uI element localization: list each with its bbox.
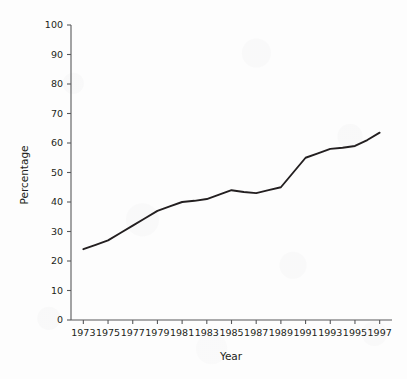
y-axis-tick-label: 90	[51, 49, 63, 60]
y-axis-tick-label: 20	[51, 255, 63, 266]
x-axis-tick-label: 1981	[170, 327, 194, 338]
x-axis-tick-label: 1989	[269, 327, 293, 338]
y-axis-tick-label: 0	[57, 314, 63, 325]
x-axis-tick-label: 1977	[121, 327, 145, 338]
y-axis-tick-label: 70	[51, 108, 63, 119]
y-axis-tick-label: 50	[51, 167, 63, 178]
x-axis-tick-label: 1991	[293, 327, 317, 338]
y-axis-title: Percentage	[18, 145, 30, 204]
x-axis-tick-label: 1995	[343, 327, 367, 338]
y-axis-tick-label: 10	[51, 285, 63, 296]
y-axis-tick-label: 80	[51, 78, 63, 89]
y-axis-tick-label: 100	[45, 19, 63, 30]
y-axis-tick-marks	[67, 25, 71, 320]
x-axis-tick-label: 1987	[244, 327, 268, 338]
x-axis-tick-label: 1979	[145, 327, 169, 338]
chart-plot-area: 0102030405060708090100 19731975197719791…	[0, 0, 407, 379]
x-axis-tick-label: 1993	[318, 327, 342, 338]
y-axis-tick-label: 60	[51, 137, 63, 148]
line-chart-figure: 0102030405060708090100 19731975197719791…	[0, 0, 407, 379]
x-axis-tick-label: 1973	[71, 327, 95, 338]
x-axis-tick-marks	[83, 320, 379, 324]
x-axis-title: Year	[219, 350, 243, 362]
y-axis-tick-labels: 0102030405060708090100	[45, 19, 63, 325]
x-axis-tick-label: 1975	[96, 327, 120, 338]
y-axis-tick-label: 40	[51, 196, 63, 207]
data-series-line	[83, 133, 379, 250]
x-axis-tick-label: 1985	[219, 327, 243, 338]
x-axis-tick-labels: 1973197519771979198119831985198719891991…	[71, 327, 391, 338]
x-axis-tick-label: 1997	[368, 327, 392, 338]
x-axis-tick-label: 1983	[195, 327, 219, 338]
y-axis-tick-label: 30	[51, 226, 63, 237]
